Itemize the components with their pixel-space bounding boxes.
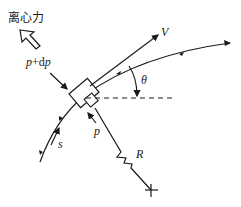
fluid-element <box>69 78 103 112</box>
arc-length-label: s <box>58 137 63 151</box>
pressure-plus-arrow <box>50 73 67 89</box>
angle-label: θ <box>141 73 147 87</box>
radius-label: R <box>135 147 144 161</box>
velocity-vector <box>90 35 158 86</box>
angle-arc <box>129 66 137 96</box>
fluid-element-diagram: 离心力 p+dp p+dp V θ p R s <box>0 0 241 207</box>
centrifugal-force-label: 离心力 <box>8 10 44 25</box>
streamline-curve <box>40 43 230 162</box>
velocity-label: V <box>161 25 170 39</box>
pressure-arrow <box>88 113 96 123</box>
pressure-plus-label: p+dp <box>25 55 51 69</box>
streamline-arrow-end <box>224 40 231 46</box>
centrifugal-arrow-icon <box>20 30 40 49</box>
pressure-label: p <box>93 124 100 138</box>
